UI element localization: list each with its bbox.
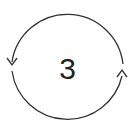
cycle-diagram: 3 <box>0 0 135 136</box>
cycle-number: 3 <box>0 0 135 136</box>
